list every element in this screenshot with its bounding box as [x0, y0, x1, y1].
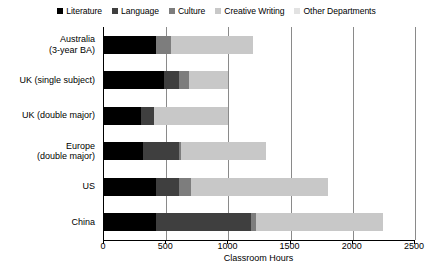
legend-swatch-icon [169, 8, 175, 14]
bar-segment [104, 213, 156, 231]
bar-segment [156, 213, 251, 231]
bar-segment [156, 36, 171, 54]
y-axis-label: China [0, 217, 95, 228]
gridline [291, 27, 292, 240]
plot-area [103, 27, 415, 241]
bar-segment [154, 107, 229, 125]
y-axis-label: US [0, 181, 95, 192]
gridline [166, 27, 167, 240]
x-axis-tick-labels: 05001000150020002500 [0, 241, 433, 253]
legend-label: Creative Writing [224, 7, 284, 16]
bar-row [104, 36, 253, 54]
bar-segment [104, 142, 143, 160]
bar-segment [156, 178, 178, 196]
legend-item: Language [112, 7, 159, 16]
bar-segment [141, 107, 153, 125]
x-axis-tickmark [290, 240, 291, 244]
legend-label: Language [121, 7, 159, 16]
gridline [353, 27, 354, 240]
bar-row [104, 71, 228, 89]
stacked-bar-chart: LiteratureLanguageCultureCreative Writin… [0, 0, 433, 276]
gridline [415, 27, 416, 240]
bar-segment [189, 71, 229, 89]
bar-segment [104, 71, 164, 89]
legend-swatch-icon [112, 8, 118, 14]
x-axis-tickmark [227, 240, 228, 244]
bar-segment [181, 142, 266, 160]
y-axis-label: Australia (3-year BA) [0, 34, 95, 55]
bar-segment [164, 71, 179, 89]
y-axis-labels: Australia (3-year BA)UK (single subject)… [0, 27, 99, 240]
legend-swatch-icon [215, 8, 221, 14]
legend-item: Culture [169, 7, 205, 16]
bar-segment [171, 36, 253, 54]
bar-row [104, 142, 266, 160]
y-axis-label: UK (double major) [0, 110, 95, 121]
y-axis-label: Europe (double major) [0, 141, 95, 162]
chart-legend: LiteratureLanguageCultureCreative Writin… [0, 7, 433, 16]
bar-segment [256, 213, 383, 231]
gridline [228, 27, 229, 240]
x-axis-tickmark [165, 240, 166, 244]
bar-segment [104, 36, 156, 54]
bar-segment [179, 71, 189, 89]
bar-segment [104, 107, 141, 125]
y-axis-label: UK (single subject) [0, 75, 95, 86]
legend-label: Literature [66, 7, 102, 16]
legend-label: Other Departments [303, 7, 375, 16]
bar-row [104, 213, 383, 231]
bar-row [104, 107, 228, 125]
bar-segment [191, 178, 328, 196]
legend-label: Culture [178, 7, 205, 16]
x-axis-tickmark [414, 240, 415, 244]
legend-swatch-icon [57, 8, 63, 14]
x-axis-tickmark [103, 240, 104, 244]
legend-swatch-icon [294, 8, 300, 14]
x-axis-tickmark [352, 240, 353, 244]
legend-item: Creative Writing [215, 7, 284, 16]
bar-segment [143, 142, 179, 160]
x-axis-title: Classroom Hours [103, 253, 414, 263]
bar-segment [179, 178, 191, 196]
bar-row [104, 178, 328, 196]
legend-item: Literature [57, 7, 102, 16]
bar-segment [104, 178, 156, 196]
legend-item: Other Departments [294, 7, 375, 16]
